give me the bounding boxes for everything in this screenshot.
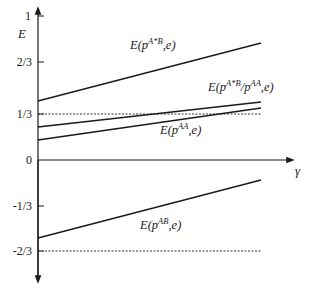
y-tick-label-0: 0 [26,153,32,167]
y-tick-label-neg-2-3: -2/3 [13,244,32,258]
series-label-pA*B: E(pA*B,e) [129,36,176,52]
y-tick-label-2-3: 2/3 [17,55,32,69]
chart-canvas: 1 2/3 1/3 0 -1/3 -2/3 E γ E(pA*B,e) E(pA… [0,0,314,292]
x-axis-label: γ [295,163,301,178]
series-label-pAA: E(pAA,e) [159,121,201,137]
series-label-pAB: E(pAB,e) [139,216,181,232]
y-tick-label-1-3: 1/3 [17,107,32,121]
y-axis-label: E [17,26,26,41]
series-line-pA*B [38,43,261,101]
y-tick-label-1: 1 [25,9,31,23]
y-ticks [38,16,44,251]
y-tick-label-neg-1-3: -1/3 [13,199,32,213]
series-label-pA*B-over-pAA: E(pA*B/pAA,e) [207,78,274,94]
series-line-pAA [38,108,261,140]
